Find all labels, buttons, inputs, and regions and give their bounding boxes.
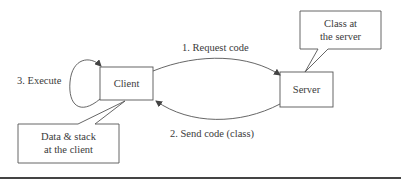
server-callout-line2: the server bbox=[300, 30, 381, 43]
execute-label: 3. Execute bbox=[17, 74, 61, 87]
client-label: Client bbox=[100, 77, 153, 90]
server-label: Server bbox=[280, 83, 333, 96]
send-code-arrow bbox=[156, 101, 280, 119]
client-callout-line1: Data & stack bbox=[18, 130, 119, 143]
send-code-label: 2. Send code (class) bbox=[170, 127, 254, 140]
client-callout-text: Data & stack at the client bbox=[18, 130, 119, 156]
execute-loop-arrow bbox=[70, 60, 101, 107]
request-code-arrow bbox=[153, 58, 280, 75]
server-callout-line1: Class at bbox=[300, 17, 381, 30]
server-callout-text: Class at the server bbox=[300, 17, 381, 43]
request-code-label: 1. Request code bbox=[182, 41, 249, 54]
client-callout-line2: at the client bbox=[18, 143, 119, 156]
